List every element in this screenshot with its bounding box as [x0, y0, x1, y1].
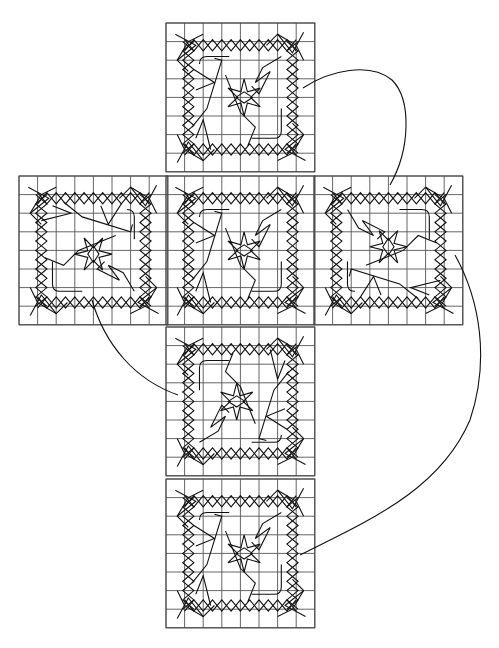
knot-strand [252, 210, 282, 247]
face-lower [166, 327, 315, 476]
face-grid [166, 327, 315, 476]
knot-strand [192, 58, 222, 127]
connectors-group [92, 70, 481, 555]
knot-strand [64, 202, 133, 232]
knot-strand [194, 526, 215, 547]
knot-strand [348, 210, 385, 240]
knot-strand [101, 204, 122, 225]
knot-strand [194, 70, 215, 91]
cube-net-diagram [0, 0, 499, 648]
knot-inner-frame [199, 360, 229, 390]
knot-strand [266, 409, 287, 430]
knot-inner-frame [52, 262, 82, 292]
connector-left-to-lower [92, 300, 178, 395]
face-right [314, 176, 463, 325]
knot-strand [349, 269, 418, 299]
face-bottom [166, 479, 315, 628]
knot-strand [192, 514, 222, 583]
face-grid [314, 176, 463, 325]
knot-strand [200, 405, 230, 442]
knot-strand [361, 276, 382, 297]
connector-top-to-right [303, 70, 406, 185]
faces-group [19, 23, 463, 628]
knot-strand [252, 513, 282, 550]
diagram-canvas [0, 0, 499, 648]
knot-strand [252, 57, 282, 94]
knot-inner-frame [252, 565, 282, 595]
knot-inner-frame [252, 109, 282, 139]
face-left [19, 176, 168, 325]
face-top [166, 23, 315, 172]
face-grid [19, 176, 168, 325]
knot-inner-frame [252, 262, 282, 292]
face-grid [166, 23, 315, 172]
face-grid [166, 176, 315, 325]
face-grid [166, 479, 315, 628]
face-center [166, 176, 315, 325]
knot-strand [97, 262, 134, 292]
knot-strand [259, 372, 289, 441]
knot-strand [194, 223, 215, 244]
knot-inner-frame [400, 209, 430, 239]
knot-strand [192, 211, 222, 280]
